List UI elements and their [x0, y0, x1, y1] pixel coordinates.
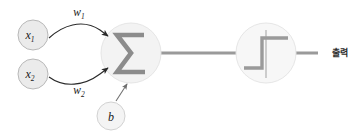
output-label: 출력 [332, 47, 348, 58]
weight-label-w1-subscript: 1 [81, 12, 85, 21]
edge-bias-to-summation [116, 84, 127, 101]
weight-label-w1: w1 [73, 6, 84, 21]
input-node-x2-subscript: 2 [31, 74, 35, 83]
bias-node-label: b [108, 110, 114, 124]
weight-label-w2: w2 [73, 84, 85, 99]
neuron-diagram-canvas: x1 x2 b w1 w2 출력 [0, 0, 364, 139]
edge-x2-to-summation [49, 68, 108, 84]
edge-x1-to-summation [49, 24, 108, 38]
input-node-x1-subscript: 1 [31, 35, 35, 44]
neuron-diagram-svg: x1 x2 b w1 w2 출력 [0, 0, 364, 139]
weight-label-w2-subscript: 2 [81, 90, 85, 99]
